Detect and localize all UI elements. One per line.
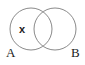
set-b-label: B — [71, 45, 80, 60]
set-a-circle — [10, 8, 52, 50]
venn-diagram: x A B — [0, 0, 85, 65]
region-marker: x — [19, 23, 26, 35]
set-b-circle — [34, 8, 76, 50]
set-a-label: A — [6, 45, 16, 60]
